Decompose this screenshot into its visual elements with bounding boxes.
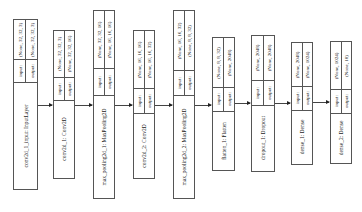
- output-port-label: output:: [344, 94, 349, 108]
- layer-label: max_pooling2d_2: MaxPooling2D: [182, 108, 187, 185]
- output-shape: (None, 16, 16, 16): [107, 21, 112, 58]
- input-port-label: input:: [17, 65, 22, 77]
- input-port-label: input:: [96, 76, 101, 88]
- node-maxpool-2: (None, 16, 16, 32) (None, 8, 8, 32) inpu…: [173, 10, 195, 199]
- node-dropout: (None, 2048) (None, 2048) input: output:…: [251, 35, 275, 172]
- output-port-label: output:: [29, 63, 34, 77]
- edge-arrow: [195, 105, 211, 106]
- shape-cells: (None, 32, 32, 16) (None, 16, 16, 16): [94, 11, 114, 69]
- input-port-label: input:: [136, 95, 141, 107]
- node-dense-1: (None, 2048) (None, 1024) input: output:…: [291, 42, 313, 165]
- layer-label: dropout_1: Dropout: [261, 116, 266, 160]
- node-dense-2: (None, 1024) (None, 10) input: output: d…: [330, 41, 352, 164]
- output-port-label: output:: [227, 92, 232, 106]
- port-cells: input: output:: [331, 89, 351, 114]
- input-shape: (None, 32, 32, 3): [56, 37, 61, 71]
- shape-cells: (None, 32, 32, 3) (None, 32, 32, 3): [14, 20, 37, 60]
- output-port-label: output:: [107, 74, 112, 88]
- edge-arrow: [313, 102, 329, 103]
- edge-arrow: [155, 105, 172, 106]
- edge-arrow: [275, 103, 290, 104]
- shape-cells: (None, 32, 32, 3) (None, 32, 32, 16): [54, 31, 74, 78]
- port-cells: input: output:: [252, 80, 274, 106]
- output-port-label: output:: [266, 85, 271, 99]
- layer-label: dense_1: Dense: [300, 120, 305, 155]
- output-port-label: output:: [187, 75, 192, 89]
- output-shape: (None, 2048): [227, 49, 232, 76]
- layer-label: conv2d_2: Conv2D: [142, 124, 147, 167]
- input-port-label: input:: [333, 95, 338, 107]
- output-shape: (None, 2048): [266, 45, 271, 72]
- input-port-label: input:: [294, 92, 299, 104]
- port-cells: input: output:: [134, 88, 154, 114]
- shape-cells: (None, 2048) (None, 2048): [252, 36, 274, 81]
- layer-label: conv2d_1_input: InputLayer: [23, 104, 28, 167]
- node-conv2d-1: (None, 32, 32, 3) (None, 32, 32, 16) inp…: [53, 30, 75, 179]
- node-flatten: (None, 8, 8, 32) (None, 2048) input: out…: [212, 37, 235, 171]
- input-shape: (None, 8, 8, 32): [216, 47, 221, 79]
- node-input-layer: (None, 32, 32, 3) (None, 32, 32, 3) inpu…: [13, 19, 38, 190]
- layer-label: flatten_1: Flatten: [221, 122, 226, 160]
- port-cells: input: output:: [14, 59, 37, 83]
- output-shape: (None, 32, 32, 16): [67, 36, 72, 73]
- input-shape: (None, 2048): [294, 51, 299, 78]
- port-cells: input: output:: [292, 86, 312, 111]
- output-port-label: output:: [67, 81, 72, 95]
- edge-arrow: [235, 103, 250, 104]
- shape-cells: (None, 8, 8, 32) (None, 2048): [213, 38, 234, 88]
- port-cells: input: output:: [54, 77, 74, 101]
- edge-arrow: [115, 105, 132, 106]
- input-shape: (None, 16, 16, 32): [176, 22, 181, 59]
- layer-label: max_pooling2d_1: MaxPooling2D: [102, 108, 107, 185]
- output-shape: (None, 10): [344, 55, 349, 77]
- output-shape: (None, 8, 8, 32): [187, 25, 192, 57]
- output-shape: (None, 32, 32, 3): [29, 22, 34, 56]
- output-shape: (None, 16, 16, 32): [147, 41, 152, 78]
- input-shape: (None, 32, 32, 3): [17, 22, 22, 56]
- port-cells: input: output:: [94, 68, 114, 96]
- edge-arrow: [75, 105, 92, 106]
- output-port-label: output:: [305, 91, 310, 105]
- input-port-label: input:: [176, 77, 181, 89]
- input-port-label: input:: [255, 87, 260, 99]
- output-shape: (None, 1024): [305, 51, 310, 78]
- layer-label: conv2d_1: Conv2D: [62, 117, 67, 160]
- port-cells: input: output:: [174, 70, 194, 96]
- layer-label: dense_2: Dense: [339, 121, 344, 156]
- node-conv2d-2: (None, 16, 16, 16) (None, 16, 16, 32) in…: [133, 30, 155, 179]
- input-port-label: input:: [56, 83, 61, 95]
- edge-arrow: [38, 105, 52, 106]
- shape-cells: (None, 2048) (None, 1024): [292, 43, 312, 87]
- input-shape: (None, 1024): [333, 52, 338, 79]
- shape-cells: (None, 16, 16, 16) (None, 16, 16, 32): [134, 31, 154, 89]
- port-cells: input: output:: [213, 87, 234, 112]
- input-port-label: input:: [216, 93, 221, 105]
- output-port-label: output:: [147, 93, 152, 107]
- node-maxpool-1: (None, 32, 32, 16) (None, 16, 16, 16) in…: [93, 10, 115, 199]
- input-shape: (None, 32, 32, 16): [96, 21, 101, 58]
- input-shape: (None, 2048): [255, 45, 260, 72]
- shape-cells: (None, 16, 16, 32) (None, 8, 8, 32): [174, 11, 194, 71]
- shape-cells: (None, 1024) (None, 10): [331, 42, 351, 90]
- input-shape: (None, 16, 16, 16): [136, 41, 141, 78]
